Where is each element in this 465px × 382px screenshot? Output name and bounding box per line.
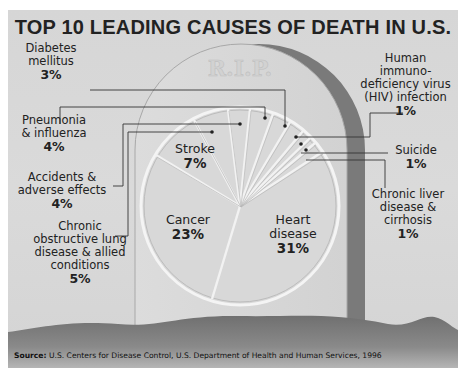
chart-title: TOP 10 LEADING CAUSES OF DEATH IN U.S. <box>8 16 458 39</box>
label-accidents: Accidents & adverse effects 4% <box>12 171 112 210</box>
label-diabetes: Diabetes mellitus 3% <box>16 42 86 81</box>
label-hiv: Human immuno- deficiency virus (HIV) inf… <box>353 52 458 117</box>
label-pneumonia: Pneumonia & influenza 4% <box>14 114 94 153</box>
label-suicide: Suicide 1% <box>386 144 446 170</box>
label-copd: Chronic obstructive lung disease & allie… <box>30 220 130 285</box>
label-liver: Chronic liver disease & cirrhosis 1% <box>368 188 448 240</box>
label-heart: Heart disease 31% <box>258 213 328 255</box>
label-stroke: Stroke 7% <box>170 142 220 170</box>
chart-panel: R.I.P. <box>8 10 458 368</box>
label-cancer: Cancer 23% <box>158 213 218 241</box>
rip-inscription: R.I.P. <box>208 55 272 81</box>
source-note: Source: U.S. Centers for Disease Control… <box>14 351 382 360</box>
